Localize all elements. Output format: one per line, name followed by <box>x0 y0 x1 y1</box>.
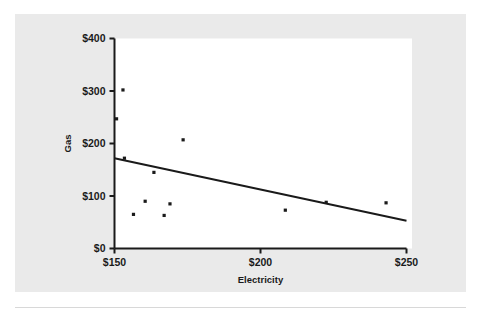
data-point <box>384 201 387 204</box>
y-axis-title: Gas <box>62 135 73 153</box>
scatter-chart: $0$100$200$300$400 $150$200$250 Electric… <box>0 0 481 317</box>
data-point <box>163 214 166 217</box>
data-point <box>123 157 126 160</box>
y-tick-label: $400 <box>82 32 106 44</box>
data-point <box>182 138 185 141</box>
y-tick-label: $100 <box>82 190 106 202</box>
data-point <box>132 213 135 216</box>
y-axis-ticks: $0$100$200$300$400 <box>82 32 114 254</box>
x-tick-label: $250 <box>395 256 419 268</box>
data-point <box>144 200 147 203</box>
data-point <box>121 88 124 91</box>
x-tick-label: $200 <box>249 256 273 268</box>
data-point <box>115 117 118 120</box>
plot-area-background <box>115 39 413 249</box>
x-tick-label: $150 <box>103 256 127 268</box>
y-tick-label: $300 <box>82 85 106 97</box>
data-point <box>152 171 155 174</box>
data-point <box>168 202 171 205</box>
x-axis-ticks: $150$200$250 <box>103 249 419 268</box>
plot-area-rect <box>115 39 413 249</box>
data-point <box>325 201 328 204</box>
data-point <box>284 209 287 212</box>
x-axis-title: Electricity <box>238 274 284 285</box>
y-tick-label: $200 <box>82 137 106 149</box>
y-tick-label: $0 <box>94 242 106 254</box>
